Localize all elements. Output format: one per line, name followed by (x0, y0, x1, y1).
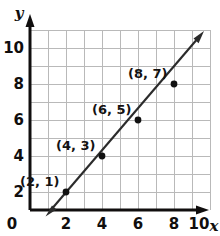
y-tick-label-8: 8 (14, 75, 24, 93)
point-label-8-7: (8, 7) (128, 66, 167, 81)
y-axis-label: y (14, 4, 25, 22)
data-point-marker (99, 153, 106, 160)
point-label-2-1: (2, 1) (20, 174, 59, 189)
x-tick-label-6: 6 (133, 215, 143, 233)
plotted-line (46, 31, 205, 217)
y-tick-label-10: 10 (3, 39, 24, 57)
origin-label: 0 (7, 215, 17, 233)
point-label-6-5: (6, 5) (92, 102, 131, 117)
coordinate-plane-figure: 2 4 6 8 10 2 4 6 8 10 0 y x (2, 1) (4, 3… (0, 0, 220, 236)
chart-canvas: 2 4 6 8 10 2 4 6 8 10 0 y x (2, 1) (4, 3… (0, 0, 220, 236)
x-tick-labels: 2 4 6 8 10 (61, 215, 210, 233)
x-tick-label-8: 8 (169, 215, 179, 233)
point-label-4-3: (4, 3) (56, 138, 95, 153)
x-axis-label: x (209, 217, 220, 235)
data-point-marker (171, 81, 178, 88)
y-tick-label-6: 6 (14, 111, 24, 129)
x-tick-label-2: 2 (61, 215, 71, 233)
x-tick-label-10: 10 (189, 215, 210, 233)
y-tick-label-4: 4 (14, 147, 24, 165)
x-tick-label-4: 4 (97, 215, 107, 233)
data-point-marker (135, 117, 142, 124)
data-point-marker (63, 189, 70, 196)
